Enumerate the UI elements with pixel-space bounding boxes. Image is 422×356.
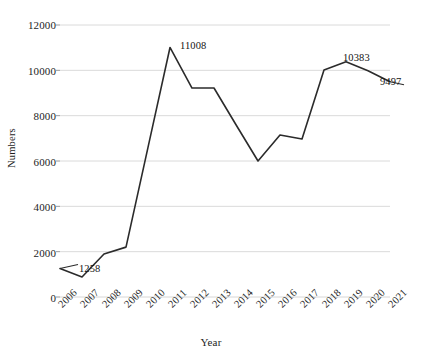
x-tick-2011: 2011: [166, 287, 189, 310]
x-tick-2012: 2012: [188, 287, 211, 310]
data-label-2021: 9497: [380, 76, 401, 87]
x-tick-2019: 2019: [342, 287, 365, 310]
line-chart-figure: 12000 10000 8000 6000 4000 2000 0 Number…: [0, 0, 422, 356]
x-tick-2008: 2008: [100, 287, 123, 310]
data-label-2011: 11008: [180, 40, 206, 51]
data-label-2019: 10383: [343, 52, 370, 63]
x-tick-2013: 2013: [210, 287, 233, 310]
x-tick-2010: 2010: [144, 287, 167, 310]
x-tick-2014: 2014: [232, 287, 255, 310]
data-label-2006: 1258: [79, 263, 100, 274]
x-tick-2006: 2006: [56, 287, 79, 310]
x-tick-2018: 2018: [320, 287, 343, 310]
x-tick-2020: 2020: [364, 287, 387, 310]
x-axis-title: Year: [0, 336, 422, 348]
x-tick-2015: 2015: [254, 287, 277, 310]
x-tick-2017: 2017: [298, 287, 321, 310]
x-tick-2009: 2009: [122, 287, 145, 310]
x-tick-2016: 2016: [276, 287, 299, 310]
x-tick-2021: 2021: [386, 287, 409, 310]
x-tick-2007: 2007: [78, 287, 101, 310]
